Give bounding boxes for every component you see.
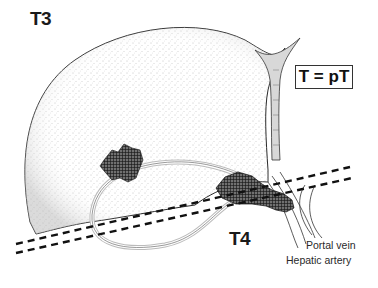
t-equals-pt-box: T = pT bbox=[295, 65, 353, 89]
t3-label: T3 bbox=[30, 8, 51, 30]
t4-label: T4 bbox=[229, 228, 250, 250]
portal-vein-label: Portal vein bbox=[306, 239, 356, 251]
hepatic-artery-label: Hepatic artery bbox=[286, 254, 351, 266]
